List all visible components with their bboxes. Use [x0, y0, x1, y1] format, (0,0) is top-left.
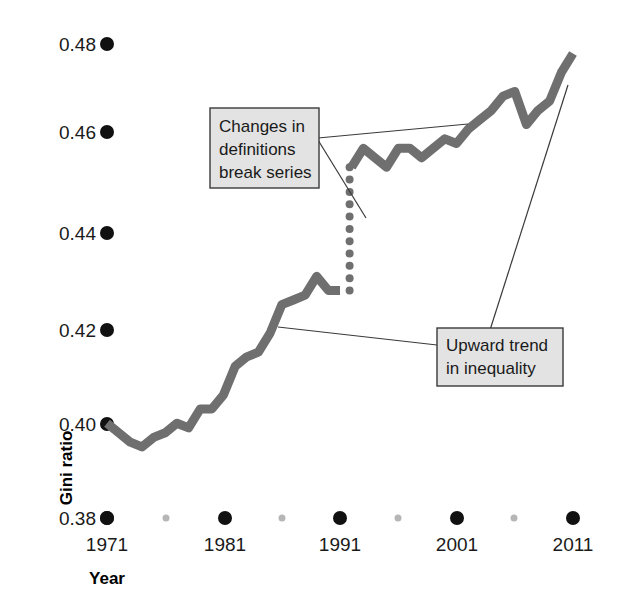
x-tick-dot-1971 [100, 511, 114, 525]
break-dot [346, 262, 354, 270]
x-tick-dot-1991 [333, 511, 347, 525]
break-dot [346, 200, 354, 208]
gini-ratio-line-chart: 0.48 0.46 0.44 0.42 0.40 0.38 [0, 0, 623, 607]
x-tick-label-1: 1981 [204, 534, 246, 555]
x-tick-dot-1981 [218, 511, 232, 525]
x-axis-tick-dots [100, 511, 580, 525]
y-tick-label-3: 0.42 [59, 320, 96, 341]
series-line-pre-1992 [107, 276, 340, 447]
x-minor-tick-dot-1986 [279, 515, 286, 522]
x-tick-label-2: 1991 [319, 534, 361, 555]
trend-note-leader-left [278, 327, 437, 345]
annotation-trend-note[interactable]: Upward trend in inequality [437, 328, 563, 386]
break-dot [346, 237, 354, 245]
break-dot [346, 225, 354, 233]
break-dot [346, 176, 354, 184]
y-tick-dot-0 [100, 37, 114, 51]
y-tick-label-0: 0.48 [59, 34, 96, 55]
x-axis-title: Year [89, 569, 125, 588]
x-tick-label-4: 2011 [553, 534, 594, 555]
x-tick-label-0: 1971 [86, 534, 128, 555]
y-axis-tick-dots [100, 37, 114, 525]
y-tick-label-5: 0.38 [59, 508, 96, 529]
break-note-line-2: break series [219, 163, 312, 182]
trend-note-line-0: Upward trend [446, 336, 548, 355]
x-tick-label-3: 2001 [436, 534, 478, 555]
break-dot [346, 213, 354, 221]
x-tick-dot-2011 [566, 511, 580, 525]
y-tick-dot-2 [100, 226, 114, 240]
break-dot [346, 274, 354, 282]
series-line-post-1992 [352, 54, 573, 168]
x-minor-tick-dot-1976 [163, 515, 170, 522]
annotation-break-note[interactable]: Changes in definitions break series [210, 108, 319, 188]
trend-note-line-1: in inequality [446, 359, 536, 378]
break-note-line-1: definitions [219, 140, 296, 159]
y-tick-label-1: 0.46 [59, 122, 96, 143]
y-tick-dot-1 [100, 125, 114, 139]
series-break-dotted-marker [346, 163, 354, 294]
x-tick-dot-2001 [450, 511, 464, 525]
x-minor-tick-dot-1996 [395, 515, 402, 522]
break-dot [346, 163, 354, 171]
break-dot [346, 250, 354, 258]
y-axis-title: Gini ratio [57, 431, 76, 506]
y-tick-dot-3 [100, 323, 114, 337]
break-dot [346, 287, 354, 295]
break-note-line-0: Changes in [219, 117, 305, 136]
chart-svg: 0.48 0.46 0.44 0.42 0.40 0.38 [0, 0, 623, 607]
x-minor-tick-dot-2006 [511, 515, 518, 522]
y-tick-label-2: 0.44 [59, 223, 96, 244]
x-axis-tick-labels: 1971 1981 1991 2001 2011 [86, 534, 594, 555]
